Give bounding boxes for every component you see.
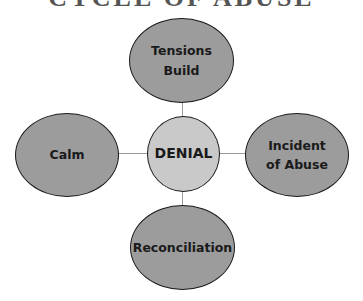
diagram-title: CYCLE OF ABUSE: [0, 0, 363, 13]
node-incident-of-abuse: Incident of Abuse: [245, 113, 349, 197]
node-tensions-build: Tensions Build: [129, 18, 234, 103]
center-label: DENIAL: [155, 143, 213, 165]
connector-left: [118, 153, 147, 154]
node-calm: Calm: [15, 113, 119, 197]
node-label: Incident of Abuse: [266, 136, 328, 175]
connector-top: [182, 102, 183, 116]
node-denial: DENIAL: [147, 116, 220, 192]
connector-right: [219, 153, 246, 154]
node-reconciliation: Reconciliation: [130, 205, 235, 290]
node-label: Calm: [50, 145, 85, 164]
node-label: Tensions Build: [151, 41, 212, 80]
node-label: Reconciliation: [133, 238, 232, 257]
connector-bottom: [182, 191, 183, 206]
